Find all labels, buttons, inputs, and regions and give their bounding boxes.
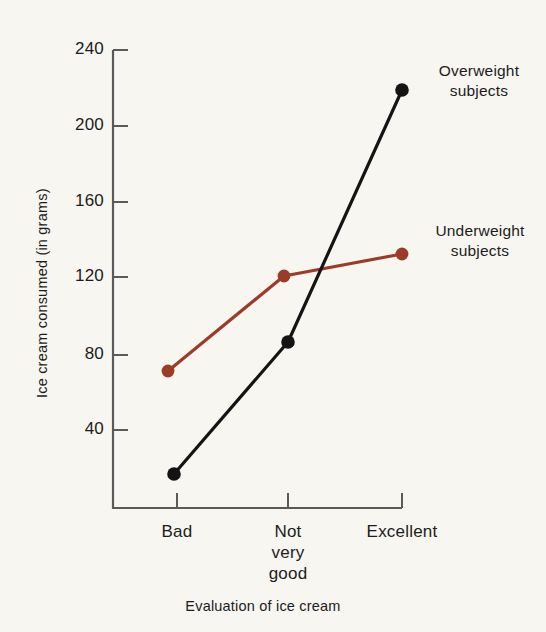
x-tick-label-notverygood-line1: Not xyxy=(248,522,328,542)
y-tick-label-200: 200 xyxy=(48,115,104,135)
series-line-overweight xyxy=(174,90,402,474)
y-tick-label-80: 80 xyxy=(48,344,104,364)
x-axis-title: Evaluation of ice cream xyxy=(118,598,408,615)
y-tick-label-120: 120 xyxy=(48,266,104,286)
axis-lines xyxy=(113,50,402,508)
y-tick-label-240: 240 xyxy=(48,39,104,59)
annotation-underweight-line2: subjects xyxy=(414,242,546,260)
series-points-overweight xyxy=(167,83,409,481)
x-tick-label-notverygood-line2: very xyxy=(248,543,328,563)
x-tick-label-notverygood-line3: good xyxy=(248,564,328,584)
annotation-overweight-line1: Overweight xyxy=(414,62,544,80)
y-axis-title: Ice cream consumed (in grams) xyxy=(34,188,51,398)
chart-figure: 240 200 160 120 80 40 Ice cream consumed… xyxy=(0,0,546,632)
annotation-overweight-line2: subjects xyxy=(414,82,544,100)
y-tick-label-40: 40 xyxy=(48,419,104,439)
series-points-underweight xyxy=(162,248,409,378)
x-tick-label-excellent: Excellent xyxy=(347,522,457,542)
x-tick-marks xyxy=(177,493,402,508)
x-tick-label-bad: Bad xyxy=(137,522,217,542)
annotation-underweight-line1: Underweight xyxy=(414,222,546,240)
y-tick-marks xyxy=(113,50,128,430)
y-tick-label-160: 160 xyxy=(48,191,104,211)
